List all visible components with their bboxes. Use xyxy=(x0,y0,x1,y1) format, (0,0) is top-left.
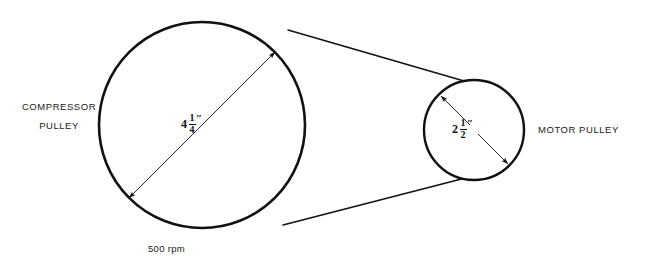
motor-diameter-fraction: 1 2 xyxy=(460,118,467,140)
compressor-diameter-numerator: 1 xyxy=(189,113,196,124)
pulley-diagram: COMPRESSOR PULLEY MOTOR PULLEY 4 1 4 ″ 2… xyxy=(0,0,648,268)
motor-diameter-denominator: 2 xyxy=(460,130,467,141)
motor-pulley-circle xyxy=(424,80,524,180)
compressor-diameter-denominator: 4 xyxy=(189,125,196,136)
motor-diameter-numerator: 1 xyxy=(460,118,467,129)
compressor-pulley-label-line2: PULLEY xyxy=(16,117,102,136)
motor-diameter-dimension: 2 1 2 ″ xyxy=(452,118,473,140)
compressor-diameter-whole: 4 xyxy=(181,117,187,132)
compressor-pulley-speed-label: 500 rpm xyxy=(148,240,185,259)
motor-diameter-whole: 2 xyxy=(452,122,458,137)
motor-pulley-label: MOTOR PULLEY xyxy=(538,121,619,140)
compressor-diameter-fraction: 1 4 xyxy=(189,113,196,135)
compressor-pulley-label: COMPRESSOR PULLEY xyxy=(16,98,102,135)
compressor-diameter-unit: ″ xyxy=(196,112,202,124)
motor-diameter-unit: ″ xyxy=(467,117,473,129)
compressor-diameter-dimension: 4 1 4 ″ xyxy=(181,113,202,135)
motor-pulley-label-line1: MOTOR PULLEY xyxy=(538,121,619,140)
compressor-pulley-label-line1: COMPRESSOR xyxy=(16,98,102,117)
